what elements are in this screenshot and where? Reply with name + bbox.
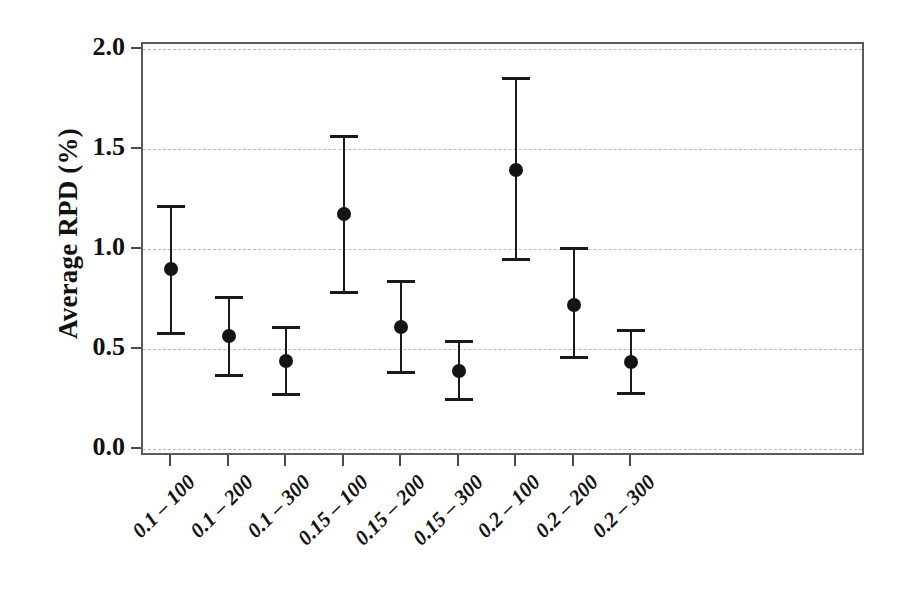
error-bar-cap-upper [387, 280, 415, 283]
plot-area [143, 44, 862, 453]
x-tick-mark [629, 455, 631, 466]
error-bar-cap-upper [560, 247, 588, 250]
y-tick-label: 0.5 [30, 332, 125, 362]
error-bar-cap-lower [330, 291, 358, 294]
x-tick-mark [342, 455, 344, 466]
data-point-marker [279, 354, 293, 368]
y-tick-label: 1.5 [30, 132, 125, 162]
y-tick-label: 0.0 [30, 432, 125, 462]
data-point-marker [222, 329, 236, 343]
x-tick-label: 0.1 – 100 [127, 470, 200, 543]
gridline [143, 249, 862, 250]
error-bar-cap-lower [502, 258, 530, 261]
error-bar-cap-lower [215, 374, 243, 377]
chart-page: Average RPD (%) 0.00.51.01.52.0 0.1 – 10… [0, 0, 906, 599]
error-bar-cap-lower [617, 392, 645, 395]
error-bar-cap-upper [617, 329, 645, 332]
gridline [143, 49, 862, 50]
x-tick-mark [227, 455, 229, 466]
error-bar-cap-upper [502, 77, 530, 80]
data-point-marker [337, 207, 351, 221]
data-point-marker [394, 320, 408, 334]
error-bar-cap-lower [157, 332, 185, 335]
data-point-marker [567, 298, 581, 312]
gridline [143, 349, 862, 350]
x-tick-mark [399, 455, 401, 466]
data-point-marker [624, 355, 638, 369]
error-bar-cap-upper [157, 205, 185, 208]
error-bar-cap-upper [215, 296, 243, 299]
error-bar-cap-lower [272, 393, 300, 396]
error-bar-cap-upper [272, 326, 300, 329]
y-tick-label: 1.0 [30, 232, 125, 262]
data-point-marker [452, 364, 466, 378]
x-tick-mark [169, 455, 171, 466]
error-bar-cap-lower [445, 398, 473, 401]
plot-frame [141, 42, 864, 455]
error-bar-cap-lower [560, 356, 588, 359]
x-tick-label: 0.2 – 100 [472, 470, 545, 543]
error-bar-cap-upper [330, 135, 358, 138]
x-tick-mark [514, 455, 516, 466]
x-tick-label: 0.2 – 200 [530, 470, 603, 543]
x-tick-mark [457, 455, 459, 466]
data-point-marker [164, 262, 178, 276]
x-tick-label: 0.1 – 200 [185, 470, 258, 543]
x-tick-mark [572, 455, 574, 466]
gridline [143, 449, 862, 450]
gridline [143, 149, 862, 150]
error-bar-cap-lower [387, 371, 415, 374]
error-bar-cap-upper [445, 340, 473, 343]
y-tick-label: 2.0 [30, 32, 125, 62]
data-point-marker [509, 163, 523, 177]
x-tick-mark [284, 455, 286, 466]
